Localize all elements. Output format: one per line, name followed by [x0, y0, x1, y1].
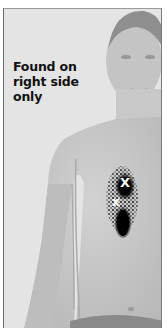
- caption-line: right side: [13, 74, 93, 89]
- trigger-point-marker-upper: X: [120, 176, 130, 189]
- torso: [24, 117, 162, 328]
- caption-line: only: [13, 89, 93, 104]
- caption-line: Found on: [13, 59, 93, 74]
- illustration-frame: Found on right side only X x: [3, 8, 162, 328]
- trigger-point-marker-lower: x: [112, 196, 120, 208]
- body-figure: [4, 9, 162, 328]
- caption: Found on right side only: [13, 59, 93, 104]
- head: [106, 11, 162, 101]
- navel: [128, 307, 134, 311]
